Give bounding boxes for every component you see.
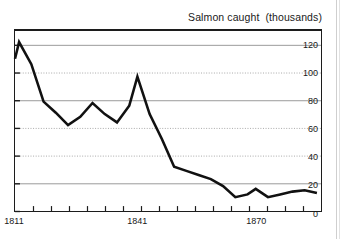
y-tick-label: 120 <box>303 41 318 50</box>
y-tick-label: 80 <box>308 97 318 106</box>
chart-title: Salmon caught (thousands) <box>188 11 322 24</box>
x-tick-label: 1870 <box>246 216 266 226</box>
plot-frame: 020406080100120 <box>14 29 322 212</box>
salmon-catch-line <box>15 42 317 197</box>
page-edge-artifact-outer <box>339 0 340 239</box>
y-tick-label: 100 <box>303 69 318 78</box>
y-tick-label: 40 <box>308 153 318 162</box>
x-tick-label: 1841 <box>127 216 147 226</box>
y-tick-marks-group <box>15 45 20 211</box>
chart-figure: Salmon caught (thousands) 02040608010012… <box>0 0 341 239</box>
plot-area <box>15 31 321 211</box>
page-edge-artifact <box>336 0 337 239</box>
y-tick-label: 20 <box>308 181 318 190</box>
gridlines-group <box>15 45 321 183</box>
y-tick-label: 0 <box>313 210 318 219</box>
x-tick-label: 1811 <box>4 216 23 226</box>
x-tick-marks-group <box>33 206 303 211</box>
y-tick-label: 60 <box>308 125 318 134</box>
